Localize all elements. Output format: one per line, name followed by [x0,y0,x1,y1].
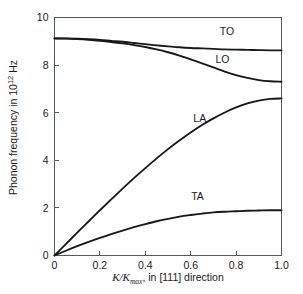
y-tick-label: 2 [43,202,49,214]
x-tick-label: 0 [52,259,58,271]
curve-ta [55,210,282,255]
y-tick-label: 8 [43,59,49,71]
curve-label-la: LA [193,112,206,124]
phonon-dispersion-figure: 00.20.40.60.81.0 0246810 TOLOLATA Phonon… [0,0,303,294]
y-tick-label: 10 [37,11,49,23]
x-axis-title-symbol: K/K [111,271,130,283]
x-axis-title-rest: , in [111] direction [142,271,223,283]
y-axis-tick-marks [55,18,60,256]
x-axis-title-text: K/Kmax, in [111] direction [111,271,224,286]
x-axis-title-subscript: max [130,277,143,286]
y-axis-title-trail: Hz [7,60,19,76]
x-tick-label: 1.0 [274,259,289,271]
svg-text:Phonon frequency in 1012 Hz: Phonon frequency in 1012 Hz [6,60,19,195]
y-tick-label: 4 [43,154,49,166]
y-tick-label: 6 [43,107,49,119]
dispersion-curve-labels: TOLOLATA [191,25,234,201]
curve-label-lo: LO [215,53,229,65]
x-tick-label: 0.6 [183,259,198,271]
x-axis-title: K/Kmax, in [111] direction [111,271,224,286]
curve-label-ta: TA [191,190,204,202]
x-axis-tick-labels: 00.20.40.60.81.0 [52,259,289,271]
x-tick-label: 0.2 [93,259,108,271]
curve-la [55,98,282,255]
x-axis-tick-marks [55,251,282,256]
y-axis-title-lead: Phonon frequency in 10 [7,84,19,195]
y-axis-title-exponent: 12 [6,76,15,84]
y-tick-label: 0 [43,249,49,261]
phonon-dispersion-chart: 00.20.40.60.81.0 0246810 TOLOLATA Phonon… [0,0,303,294]
dispersion-curves [55,38,282,255]
x-tick-label: 0.8 [229,259,244,271]
curve-label-to: TO [220,25,234,37]
y-axis-tick-labels: 0246810 [37,11,49,261]
curve-lo [55,38,282,81]
x-tick-label: 0.4 [138,259,153,271]
y-axis-title: Phonon frequency in 1012 Hz [6,60,19,195]
